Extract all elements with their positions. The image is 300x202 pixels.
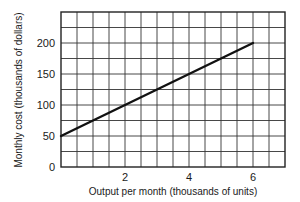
x-tick-label: 6 bbox=[250, 171, 256, 183]
x-axis-ticks: 246 bbox=[122, 171, 256, 183]
cost-line-chart: 050100150200 246 Output per month (thous… bbox=[0, 0, 300, 202]
x-tick-label: 2 bbox=[122, 171, 128, 183]
y-tick-label: 150 bbox=[37, 68, 55, 80]
y-tick-label: 200 bbox=[37, 37, 55, 49]
y-axis-ticks: 050100150200 bbox=[37, 37, 55, 173]
y-tick-label: 0 bbox=[49, 161, 55, 173]
x-tick-label: 4 bbox=[186, 171, 192, 183]
y-tick-label: 50 bbox=[43, 130, 55, 142]
y-tick-label: 100 bbox=[37, 99, 55, 111]
grid-lines bbox=[61, 12, 285, 167]
x-axis-label: Output per month (thousands of units) bbox=[89, 186, 257, 197]
y-axis-label: Monthly cost (thousands of dollars) bbox=[13, 12, 24, 167]
